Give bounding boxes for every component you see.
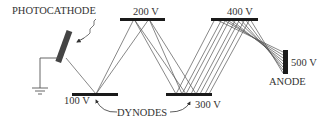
dynode-300v (166, 93, 212, 96)
ground-icon (32, 88, 48, 94)
dynode-200v-label: 200 V (133, 6, 159, 17)
photon-wave-icon (84, 19, 96, 38)
dynodes-arrow-right-icon (170, 102, 190, 112)
dynode-400v-label: 400 V (227, 6, 253, 17)
dynode-100v-label: 100 V (64, 95, 90, 106)
dynode-100v (72, 93, 118, 96)
photocathode-label: PHOTOCATHODE (12, 5, 96, 16)
diagram-canvas: PHOTOCATHODE 200 V 400 V 100 V 300 V 500… (0, 0, 332, 125)
anode-plate (283, 50, 288, 74)
dynodes-label: DYNODES (117, 107, 167, 118)
dynodes-arrow-left-icon (96, 100, 117, 112)
electron-paths (66, 19, 283, 94)
ground-wire (40, 58, 59, 88)
dynode-200v (120, 18, 165, 21)
anode-voltage-label: 500 V (291, 57, 317, 68)
pmt-diagram: PHOTOCATHODE 200 V 400 V 100 V 300 V 500… (0, 0, 332, 125)
dynode-400v (211, 18, 258, 21)
dynode-300v-label: 300 V (195, 99, 221, 110)
photon-arrow-icon (77, 38, 84, 42)
anode-label: ANODE (269, 76, 306, 87)
